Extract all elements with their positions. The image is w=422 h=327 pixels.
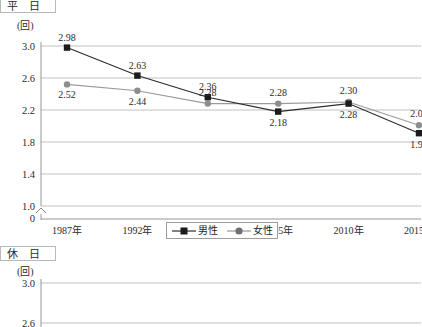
y-tick-label: 2.6 <box>22 318 35 327</box>
data-label-female: 2.28 <box>199 87 217 98</box>
chart-plot-holiday: 3.02.6 <box>0 246 422 327</box>
data-label-female: 2.44 <box>129 96 147 107</box>
data-point-male <box>345 100 351 106</box>
y-tick-label: 3.0 <box>22 41 35 52</box>
x-tick-label: 1987年 <box>52 224 82 236</box>
holiday-chart-svg: 3.02.6 <box>0 246 422 327</box>
data-label-female: 2.28 <box>269 87 287 98</box>
y-tick-label: 0 <box>30 213 35 224</box>
two-panel-line-chart-figure: 平 日 (回) 3.02.62.21.81.41.00 1987年1992年19… <box>0 0 422 327</box>
y-tick-label: 3.0 <box>22 278 35 289</box>
legend-label-male: 男性 <box>198 225 218 237</box>
data-point-male <box>64 44 70 50</box>
x-tick-label: 1992年 <box>122 224 152 236</box>
data-point-male <box>275 108 281 114</box>
y-axis-weekday <box>41 42 421 220</box>
legend-label-female: 女性 <box>253 225 273 237</box>
y-tick-label: 2.2 <box>22 105 35 116</box>
x-tick-label: 2010年 <box>334 224 364 236</box>
y-tick-label: 1.8 <box>22 137 35 148</box>
data-point-female <box>134 88 140 94</box>
data-point-labels-weekday: 2.982.632.362.182.281.912.522.442.282.28… <box>58 32 422 151</box>
chart-legend-weekday: 男性 女性 <box>166 222 278 239</box>
square-marker-icon <box>172 226 196 236</box>
y-tick-label: 1.0 <box>22 201 35 212</box>
legend-item-male: 男性 <box>172 225 218 237</box>
chart-plot-weekday: 3.02.62.21.81.41.00 1987年1992年1999年2005年… <box>0 0 422 250</box>
data-label-female: 2.52 <box>58 89 76 100</box>
y-tick-labels-holiday: 3.02.6 <box>22 278 35 327</box>
gridlines-holiday <box>41 283 421 323</box>
data-label-female: 2.01 <box>410 108 422 119</box>
y-tick-labels-weekday: 3.02.62.21.81.41.00 <box>22 41 36 224</box>
data-point-female <box>64 81 70 87</box>
y-tick-label: 2.6 <box>22 73 35 84</box>
y-tick-label: 1.4 <box>22 169 36 180</box>
x-tick-label: 2015年 <box>404 224 422 236</box>
line-male <box>67 48 419 134</box>
axis-break-icon <box>36 208 46 213</box>
data-series-weekday <box>64 44 422 136</box>
data-point-female <box>416 122 422 128</box>
circle-marker-icon <box>227 226 251 236</box>
data-label-male: 2.63 <box>129 60 147 71</box>
data-point-female <box>205 100 211 106</box>
weekday-chart-svg: 3.02.62.21.81.41.00 1987年1992年1999年2005年… <box>0 0 422 250</box>
data-point-male <box>416 130 422 136</box>
data-label-male: 1.91 <box>410 139 422 150</box>
legend-item-female: 女性 <box>227 225 273 237</box>
data-label-male: 2.28 <box>340 109 358 120</box>
data-label-male: 2.18 <box>269 117 287 128</box>
data-label-male: 2.98 <box>58 32 76 43</box>
axis-break-icon <box>36 208 46 213</box>
data-point-male <box>134 72 140 78</box>
data-point-female <box>275 100 281 106</box>
gridlines-weekday <box>41 46 421 206</box>
data-label-female: 2.30 <box>340 85 358 96</box>
